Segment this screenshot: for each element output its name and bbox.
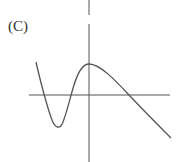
function-curve: [36, 62, 171, 138]
function-graph: [0, 0, 177, 162]
